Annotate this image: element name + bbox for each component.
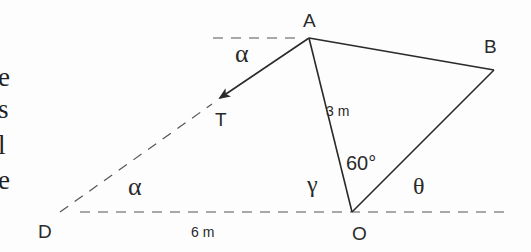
- side-AB: [309, 38, 494, 70]
- angle-label-60deg: 60°: [346, 152, 376, 174]
- angle-label-alpha-top: α: [235, 39, 249, 68]
- geometry-diagram: A B O D T 3 m 6 m 60° α α γ θ: [0, 0, 531, 252]
- point-label-O: O: [352, 223, 367, 244]
- length-label-DO: 6 m: [191, 224, 214, 240]
- length-label-AO: 3 m: [326, 103, 349, 119]
- angle-label-alpha-bottom: α: [128, 172, 142, 201]
- diagram-canvas: e s l e A B O D T 3 m 6 m 60° α α: [0, 0, 531, 252]
- angle-label-gamma: γ: [306, 171, 318, 197]
- point-label-D: D: [38, 221, 52, 242]
- arrow-AT: [220, 38, 309, 98]
- point-label-T: T: [215, 109, 227, 130]
- angle-label-theta: θ: [413, 173, 425, 199]
- point-label-B: B: [484, 36, 497, 57]
- point-label-A: A: [303, 10, 316, 31]
